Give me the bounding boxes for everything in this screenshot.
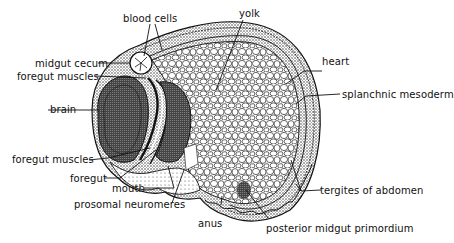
label-posterior-midgut-primordium: posterior midgut primordium <box>266 223 414 234</box>
label-blood-cells: blood cells <box>123 13 177 24</box>
label-anus: anus <box>198 218 222 229</box>
label-brain: brain <box>50 104 76 115</box>
label-foregut-muscles-bottom: foregut muscles <box>12 154 94 165</box>
label-splanchnic-mesoderm: splanchnic mesoderm <box>342 89 454 100</box>
label-heart: heart <box>322 56 349 67</box>
label-foregut-muscles-top: foregut muscles <box>17 71 99 82</box>
label-midgut-cecum: midgut cecum <box>35 58 108 69</box>
label-foregut: foregut <box>70 173 107 184</box>
label-prosomal-neuromeres: prosomal neuromeres <box>74 199 185 210</box>
midgut-cecum-shape <box>130 52 152 74</box>
label-tergites-of-abdomen: tergites of abdomen <box>320 185 424 196</box>
posterior-midgut-primordium-shape <box>237 181 251 199</box>
label-yolk: yolk <box>239 8 260 19</box>
label-mouth: mouth <box>112 183 145 194</box>
